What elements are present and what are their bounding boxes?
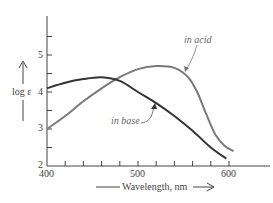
y-tick-label-4: 4: [38, 86, 43, 97]
x-tick-label-500: 500: [130, 168, 145, 179]
in-acid-curve: [47, 66, 234, 151]
y-axis-title: log ε: [12, 86, 31, 97]
axes: [47, 16, 270, 166]
acid-annotation-arrow: [186, 45, 197, 70]
y-ticks: [47, 37, 52, 148]
y-tick-label-5: 5: [38, 49, 43, 60]
in-acid-annotation: in acid: [184, 34, 212, 45]
in-base-annotation: in base: [111, 115, 140, 126]
x-tick-label-600: 600: [221, 168, 236, 179]
x-axis-title: Wavelength, nm: [122, 181, 187, 192]
y-tick-label-3: 3: [38, 122, 43, 133]
x-tick-label-400: 400: [39, 168, 54, 179]
x-ticks: [65, 161, 229, 166]
